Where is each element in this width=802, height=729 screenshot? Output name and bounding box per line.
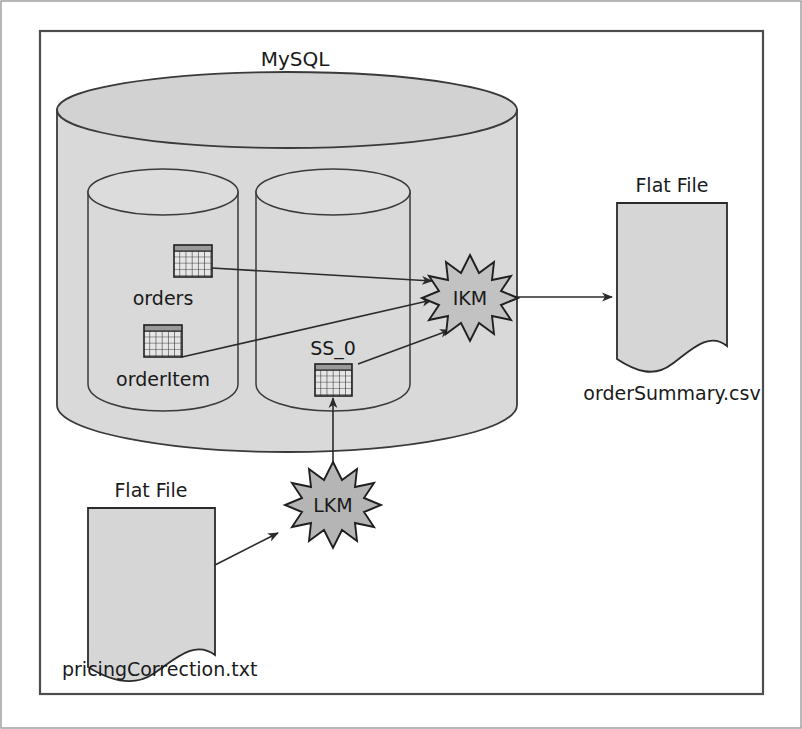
- ordersummary-filename-label: orderSummary.csv: [583, 382, 760, 404]
- schema-left-top: [88, 169, 238, 215]
- ikm-label: IKM: [453, 287, 487, 309]
- schema-right-top: [256, 169, 410, 215]
- diagram-canvas: MySQL orders orderItem SS_0 IKM LKM Flat…: [0, 0, 802, 729]
- integration-diagram: MySQL orders orderItem SS_0 IKM LKM Flat…: [0, 0, 802, 729]
- mysql-cylinder-top: [57, 72, 517, 148]
- ss0-label: SS_0: [310, 337, 356, 360]
- lkm-label: LKM: [313, 494, 352, 516]
- table-grid-icon-ss0[interactable]: [315, 364, 352, 396]
- pricingcorrection-filename-label: pricingCorrection.txt: [62, 658, 257, 680]
- flat-file-label-pricingcorrection: Flat File: [114, 479, 187, 501]
- orderitem-label: orderItem: [116, 368, 210, 390]
- table-grid-icon-orderitem[interactable]: [144, 325, 182, 357]
- table-grid-icon-orders[interactable]: [174, 245, 212, 277]
- flat-file-label-ordersummary: Flat File: [635, 174, 708, 196]
- orders-label: orders: [133, 287, 194, 309]
- mysql-label: MySQL: [261, 47, 331, 71]
